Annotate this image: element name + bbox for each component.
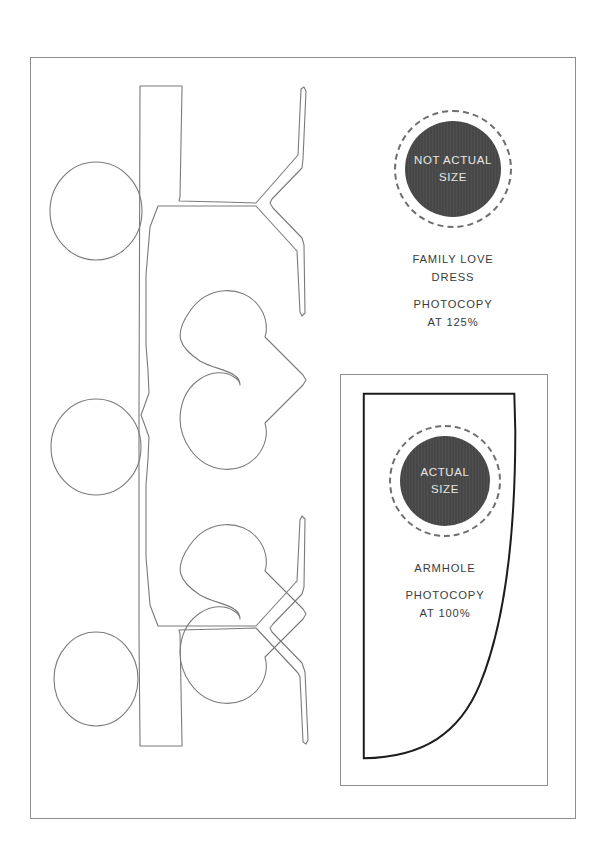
doll-head-circle [50,162,142,260]
doll-heart-body [180,525,306,704]
doll-head-circle [54,632,138,726]
armhole-instruction-line-1: PHOTOCOPY [367,586,523,604]
armhole-template-frame: ACTUAL SIZE ARMHOLE PHOTOCOPY AT 100% [340,374,548,786]
doll-heart-body [180,291,306,470]
stamp-line-2: SIZE [439,169,467,186]
armhole-instruction-line-2: AT 100% [367,604,523,622]
stamp-disc: NOT ACTUAL SIZE [405,121,501,217]
armhole-inner-content: ACTUAL SIZE ARMHOLE PHOTOCOPY AT 100% [367,425,523,622]
doll-head-circle [51,399,141,495]
paper-doll-chain-pattern [40,75,330,785]
dress-instruction-line-1: PHOTOCOPY [338,295,568,313]
stamp-line-1: NOT ACTUAL [414,152,492,169]
armhole-caption: ARMHOLE PHOTOCOPY AT 100% [367,559,523,622]
armhole-title-line-1: ARMHOLE [367,559,523,577]
actual-size-stamp: ACTUAL SIZE [389,425,501,537]
dress-title-line-2: DRESS [338,268,568,286]
right-column: NOT ACTUAL SIZE FAMILY LOVE DRESS PHOTOC… [338,110,568,332]
stamp-disc: ACTUAL SIZE [400,436,490,526]
dress-title-line-1: FAMILY LOVE [338,250,568,268]
dress-caption: FAMILY LOVE DRESS PHOTOCOPY AT 125% [338,250,568,332]
caption-spacer [338,286,568,295]
stamp-line-2: SIZE [431,481,459,498]
caption-spacer [367,577,523,586]
not-actual-size-stamp: NOT ACTUAL SIZE [394,110,512,228]
dress-instruction-line-2: AT 125% [338,313,568,331]
stamp-line-1: ACTUAL [421,464,470,481]
doll-body-outline [139,86,308,746]
